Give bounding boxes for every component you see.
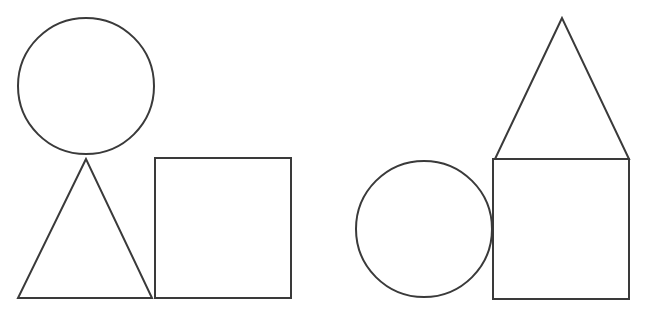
left-circle bbox=[18, 18, 154, 154]
left-arrangement bbox=[18, 18, 291, 298]
right-square bbox=[493, 159, 629, 299]
right-circle bbox=[356, 161, 492, 297]
left-square bbox=[155, 158, 291, 298]
right-arrangement bbox=[356, 18, 629, 299]
right-triangle bbox=[495, 18, 629, 159]
left-triangle bbox=[18, 159, 152, 298]
shapes-canvas bbox=[0, 0, 647, 324]
